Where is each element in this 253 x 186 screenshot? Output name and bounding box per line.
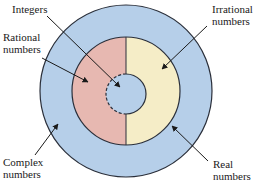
complex-label-line2: numbers bbox=[3, 168, 43, 180]
integers-label-line1: Integers bbox=[12, 3, 47, 15]
rational-numbers-label: Rational numbers bbox=[3, 31, 41, 55]
real-numbers-label: Real numbers bbox=[213, 158, 251, 182]
complex-numbers-label: Complex numbers bbox=[3, 156, 43, 180]
real-label-line2: numbers bbox=[213, 170, 251, 182]
integers-label: Integers bbox=[12, 3, 47, 15]
rational-label-line1: Rational bbox=[3, 31, 41, 43]
complex-label-line1: Complex bbox=[3, 156, 43, 168]
real-label-line1: Real bbox=[213, 158, 251, 170]
irrational-numbers-label: Irrational numbers bbox=[212, 3, 253, 27]
irrational-label-line2: numbers bbox=[212, 15, 253, 27]
irrational-label-line1: Irrational bbox=[212, 3, 253, 15]
rational-label-line2: numbers bbox=[3, 43, 41, 55]
